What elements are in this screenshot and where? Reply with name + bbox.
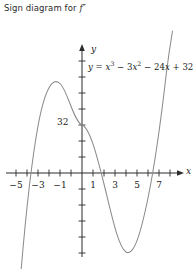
figure-container: Sign diagram for f″ bbox=[0, 0, 195, 269]
equation-annotation: y = x3 − 3x2 − 24x + 32 bbox=[88, 60, 193, 72]
equation-term4: + 32 bbox=[170, 62, 194, 72]
x-tick-label-minus3: −3 bbox=[28, 180, 48, 190]
x-tick-label-1: 1 bbox=[86, 180, 100, 190]
x-tick-label-7: 7 bbox=[152, 180, 166, 190]
x-tick-label-minus1: −1 bbox=[50, 180, 70, 190]
equation-equals: = bbox=[93, 62, 106, 72]
y-axis-arrowhead bbox=[79, 44, 85, 51]
equation-term3: − 24 bbox=[141, 62, 165, 72]
x-tick-label-3: 3 bbox=[108, 180, 122, 190]
equation-term2: − 3 bbox=[114, 62, 132, 72]
x-axis-arrowhead bbox=[177, 170, 184, 176]
cubic-plot-svg bbox=[0, 0, 195, 269]
x-tick-label-minus5: −5 bbox=[6, 180, 26, 190]
y-axis-label: y bbox=[91, 44, 96, 54]
y-intercept-label: 32 bbox=[57, 117, 68, 127]
x-tick-label-5: 5 bbox=[130, 180, 144, 190]
x-axis-label: x bbox=[186, 166, 191, 176]
